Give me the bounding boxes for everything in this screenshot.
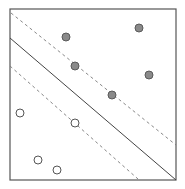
hollow-data-point [34,156,42,164]
filled-data-point [145,71,153,79]
filled-data-point [135,24,143,32]
svm-diagram [0,0,185,189]
filled-data-point [71,62,79,70]
hollow-data-point [53,166,61,174]
upper-margin-line [11,13,176,145]
filled-data-point [62,33,70,41]
separating-lines [10,13,176,180]
filled-data-point [108,91,116,99]
plot-frame [10,9,176,180]
hollow-data-point [71,119,79,127]
hollow-data-point [16,109,24,117]
positive-class-points [62,24,153,99]
